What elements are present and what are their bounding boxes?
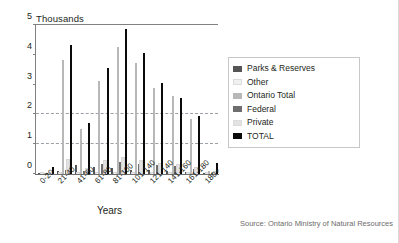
bar-group[interactable] bbox=[185, 25, 201, 174]
bar-group[interactable] bbox=[111, 25, 127, 174]
legend-swatch bbox=[233, 133, 242, 139]
bar[interactable] bbox=[161, 83, 163, 175]
legend-label: Federal bbox=[247, 105, 276, 114]
legend-item[interactable]: TOTAL bbox=[233, 130, 354, 144]
legend-item[interactable]: Parks & Reserves bbox=[233, 62, 354, 76]
legend-label: Other bbox=[247, 78, 268, 87]
source-attribution: Source: Ontario Ministry of Natural Reso… bbox=[0, 219, 393, 228]
legend-item[interactable]: Ontario Total bbox=[233, 89, 354, 103]
bar-group[interactable] bbox=[57, 25, 73, 174]
bar[interactable] bbox=[70, 45, 72, 174]
y-axis-tick-label: 0 bbox=[27, 161, 32, 170]
bar[interactable] bbox=[98, 81, 100, 174]
bar-groups bbox=[36, 25, 218, 174]
legend-item[interactable]: Private bbox=[233, 116, 354, 130]
bar-group[interactable] bbox=[148, 25, 164, 174]
legend-swatch bbox=[233, 93, 242, 99]
chart-legend: Parks & ReservesOtherOntario TotalFedera… bbox=[228, 57, 360, 148]
bar[interactable] bbox=[62, 60, 64, 174]
bar[interactable] bbox=[107, 68, 109, 175]
bar-group[interactable] bbox=[75, 25, 91, 174]
legend-label: Private bbox=[247, 118, 273, 127]
bar[interactable] bbox=[117, 47, 119, 175]
y-axis-tick-label: 5 bbox=[27, 12, 32, 21]
legend-label: Parks & Reserves bbox=[247, 64, 315, 73]
bar-group[interactable] bbox=[93, 25, 109, 174]
y-axis-unit-caption: Thousands bbox=[36, 13, 84, 24]
legend-label: Ontario Total bbox=[247, 91, 295, 100]
bar-group[interactable] bbox=[166, 25, 182, 174]
y-axis-tick-label: 4 bbox=[27, 41, 32, 50]
legend-swatch bbox=[233, 106, 242, 112]
y-axis-tick-label: 2 bbox=[27, 101, 32, 110]
y-axis-tick-label: 3 bbox=[27, 71, 32, 80]
legend-item[interactable]: Federal bbox=[233, 103, 354, 117]
y-axis-tick-label: 1 bbox=[27, 131, 32, 140]
bar[interactable] bbox=[143, 53, 145, 175]
bar-group[interactable] bbox=[38, 25, 54, 174]
bar[interactable] bbox=[135, 63, 137, 174]
legend-swatch bbox=[233, 79, 242, 85]
plot-area: 012345 bbox=[35, 24, 218, 174]
bar[interactable] bbox=[125, 29, 127, 174]
x-axis-title: Years bbox=[0, 205, 219, 216]
legend-swatch bbox=[233, 120, 242, 126]
legend-label: TOTAL bbox=[247, 132, 274, 141]
bar-group[interactable] bbox=[130, 25, 146, 174]
chart-frame: Thousands 012345 0-2021-4041-6061-8081-1… bbox=[0, 0, 399, 243]
bar-group[interactable] bbox=[203, 25, 219, 174]
legend-swatch bbox=[233, 66, 242, 72]
bar[interactable] bbox=[80, 129, 82, 174]
legend-item[interactable]: Other bbox=[233, 76, 354, 90]
